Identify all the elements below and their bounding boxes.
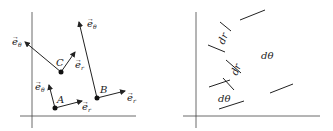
dtheta-label-2: dθ	[218, 93, 230, 104]
point-label-a: A	[56, 94, 64, 105]
segment	[223, 78, 234, 90]
dtheta-label-1: dθ	[261, 50, 273, 61]
point-b: B er → eθ →	[79, 15, 137, 104]
point-c: C er → eθ →	[12, 33, 85, 75]
dr-label-2: dr	[229, 61, 244, 77]
segment	[220, 22, 231, 31]
point-label-c: C	[56, 57, 64, 68]
vector-arrow-glyph: →	[127, 89, 134, 97]
segment	[209, 80, 230, 87]
left-panel: A er → eθ → B er → eθ → C er → eθ →	[12, 12, 137, 128]
vector-arrow-glyph: →	[12, 33, 19, 41]
segment	[208, 45, 225, 52]
right-panel: dr dr dθ dθ	[183, 10, 320, 128]
point-label-b: B	[99, 84, 107, 95]
dr-label-1: dr	[216, 30, 231, 46]
segment	[270, 84, 293, 93]
polar-basis-diagram: A er → eθ → B er → eθ → C er → eθ →	[0, 0, 333, 131]
vector-arrow-glyph: →	[87, 15, 94, 23]
vector-arrow-glyph: →	[35, 78, 42, 86]
segment	[240, 10, 265, 20]
point-a: A er → eθ →	[35, 78, 92, 113]
vector-arrow-glyph: →	[75, 56, 82, 64]
etheta-arrow-a	[49, 85, 55, 108]
vector-arrow-glyph: →	[82, 98, 89, 106]
